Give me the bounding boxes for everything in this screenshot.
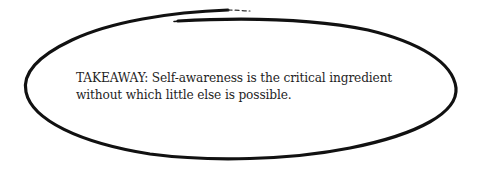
takeaway-line-1: TAKEAWAY: Self-awareness is the critical… bbox=[76, 70, 416, 87]
takeaway-line-2: without which little else is possible. bbox=[76, 87, 416, 104]
takeaway-text: TAKEAWAY: Self-awareness is the critical… bbox=[76, 70, 416, 104]
takeaway-callout: TAKEAWAY: Self-awareness is the critical… bbox=[0, 0, 479, 174]
